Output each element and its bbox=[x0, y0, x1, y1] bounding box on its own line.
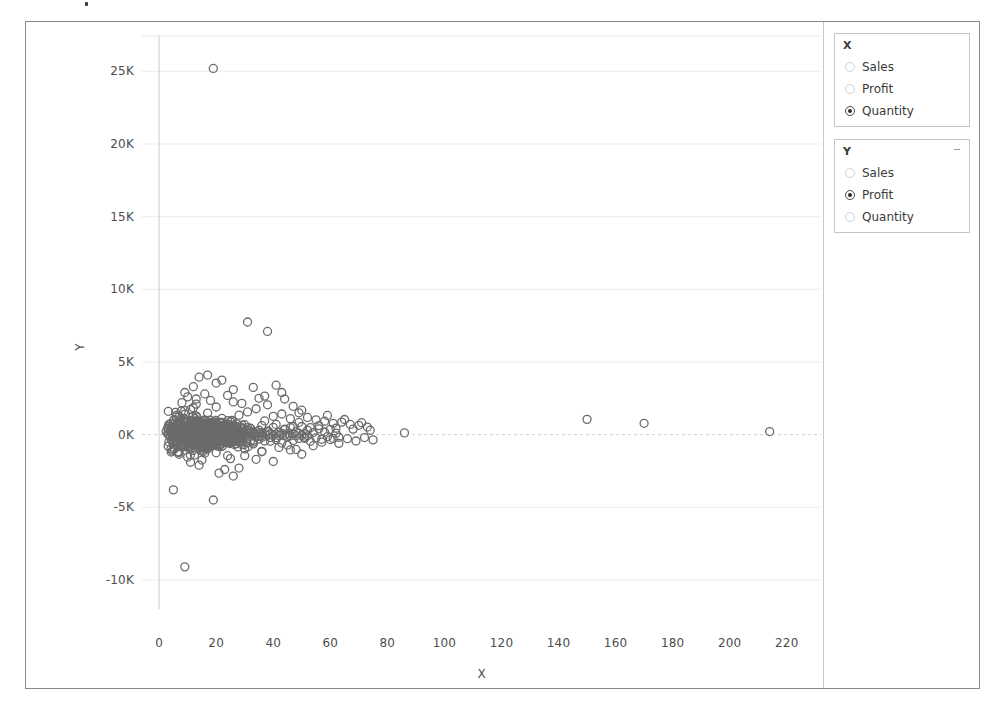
y-tick-label: 25K bbox=[110, 64, 134, 78]
x-tick-label: 220 bbox=[775, 636, 799, 650]
y-panel-title: Y bbox=[843, 145, 851, 158]
y-option-profit[interactable]: Profit bbox=[835, 184, 969, 206]
y-option-sales[interactable]: Sales bbox=[835, 162, 969, 184]
x-tick-label: 160 bbox=[604, 636, 628, 650]
y-tick-label: -10K bbox=[106, 573, 134, 587]
x-tick-label: 180 bbox=[661, 636, 685, 650]
y-axis-label: Y bbox=[73, 327, 87, 367]
radio-icon-x-sales[interactable] bbox=[845, 62, 855, 72]
x-tick-label: 100 bbox=[433, 636, 457, 650]
x-tick-label: 120 bbox=[490, 636, 514, 650]
controls-region: X Sales Profit Quantity Y Sal bbox=[824, 22, 979, 688]
x-tick-label: 140 bbox=[547, 636, 571, 650]
app-window-frame: 25K20K15K10K5K0K-5K-10K 0204060801001201… bbox=[25, 21, 980, 689]
x-axis-label: X bbox=[142, 667, 821, 681]
y-tick-label: 15K bbox=[110, 210, 134, 224]
y-option-sales-label: Sales bbox=[862, 167, 894, 179]
gridlines bbox=[142, 71, 821, 580]
scatter-plot-area[interactable] bbox=[142, 35, 821, 609]
radio-icon-y-profit[interactable] bbox=[845, 190, 855, 200]
radio-icon-x-quantity[interactable] bbox=[845, 106, 855, 116]
y-tick-label: 10K bbox=[110, 282, 134, 296]
x-tick-label: 40 bbox=[265, 636, 281, 650]
x-option-sales[interactable]: Sales bbox=[835, 56, 969, 78]
x-panel-header: X bbox=[835, 34, 969, 56]
y-panel-header: Y bbox=[835, 140, 969, 162]
x-tick-label: 80 bbox=[380, 636, 396, 650]
x-axis-tick-labels: 020406080100120140160180200220 bbox=[142, 636, 821, 656]
x-tick-label: 20 bbox=[208, 636, 224, 650]
x-option-quantity-label: Quantity bbox=[862, 105, 914, 117]
cursor-artifact bbox=[85, 2, 88, 6]
radio-icon-x-profit[interactable] bbox=[845, 84, 855, 94]
radio-icon-y-sales[interactable] bbox=[845, 168, 855, 178]
x-tick-label: 60 bbox=[322, 636, 338, 650]
x-tick-label: 0 bbox=[155, 636, 163, 650]
y-tick-label: 0K bbox=[118, 428, 134, 442]
data-points bbox=[162, 64, 774, 570]
y-option-quantity-label: Quantity bbox=[862, 211, 914, 223]
x-option-profit[interactable]: Profit bbox=[835, 78, 969, 100]
y-option-profit-label: Profit bbox=[862, 189, 893, 201]
x-variable-panel: X Sales Profit Quantity bbox=[834, 33, 970, 127]
scatter-plot-svg bbox=[142, 35, 821, 609]
y-tick-label: 20K bbox=[110, 137, 134, 151]
y-tick-label: 5K bbox=[118, 355, 134, 369]
radio-icon-y-quantity[interactable] bbox=[845, 212, 855, 222]
x-panel-title: X bbox=[843, 39, 851, 52]
y-tick-label: -5K bbox=[114, 500, 134, 514]
y-option-quantity[interactable]: Quantity bbox=[835, 206, 969, 228]
x-option-quantity[interactable]: Quantity bbox=[835, 100, 969, 122]
y-variable-panel: Y Sales Profit Quantity bbox=[834, 139, 970, 233]
x-option-profit-label: Profit bbox=[862, 83, 893, 95]
chevron-down-icon[interactable] bbox=[954, 149, 960, 150]
x-option-sales-label: Sales bbox=[862, 61, 894, 73]
x-tick-label: 200 bbox=[718, 636, 742, 650]
chart-region: 25K20K15K10K5K0K-5K-10K 0204060801001201… bbox=[26, 22, 823, 688]
